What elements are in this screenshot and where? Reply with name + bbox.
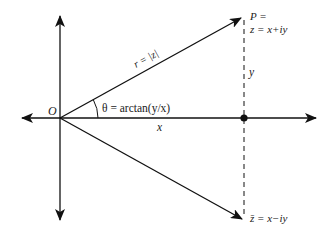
angle-label: θ = arctan(y/x)	[102, 102, 170, 115]
projection-dot	[240, 114, 247, 121]
point-p-label-line2: z = x+iy	[249, 23, 288, 35]
origin-label: O	[48, 104, 57, 118]
complex-plane-diagram: O θ = arctan(y/x) x y r = |z| P = z = x+…	[0, 0, 330, 236]
angle-arc	[93, 100, 98, 118]
conjugate-label: z̄ = x−iy	[249, 212, 288, 224]
radius-label: r = |z|	[132, 47, 160, 69]
point-p-label-line1: P =	[249, 10, 267, 22]
y-component-label: y	[248, 66, 255, 79]
x-component-label: x	[156, 121, 163, 133]
vector-z-conjugate	[60, 118, 242, 219]
